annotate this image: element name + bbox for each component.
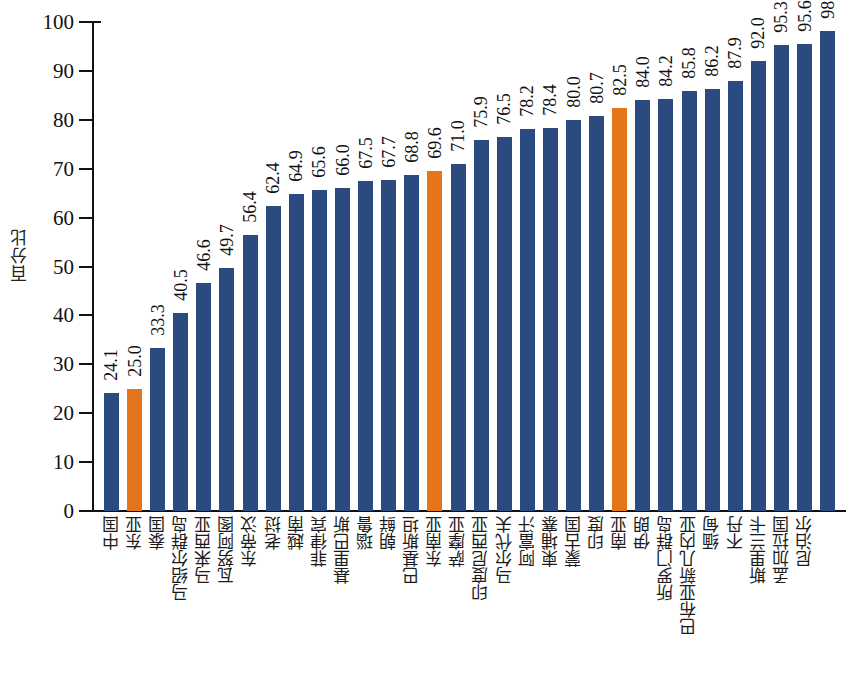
x-axis-category-label: 基里巴斯 [331, 516, 354, 584]
bar[interactable] [335, 188, 350, 511]
bar[interactable] [797, 44, 812, 511]
x-axis-category-label: 尼泊尔 [793, 516, 816, 567]
bar-value-label: 92.0 [749, 17, 767, 49]
y-axis-tick [79, 119, 92, 121]
y-axis-tick-label: 20 [0, 403, 74, 424]
bar-slot: 65.6 [308, 22, 331, 511]
bar-slot: 25.0 [123, 22, 146, 511]
x-axis-category-text: 不丹 [727, 516, 744, 550]
bar[interactable] [589, 116, 604, 511]
bar-value-label: 67.7 [380, 136, 398, 168]
bar-value-label: 80.7 [588, 73, 606, 105]
bar-value-label: 65.6 [310, 146, 328, 178]
bar-value-label: 68.8 [403, 131, 421, 163]
bar-slot: 56.4 [239, 22, 262, 511]
x-axis-category-text: 所罗门群岛 [657, 516, 674, 601]
bar[interactable] [219, 268, 234, 511]
x-axis-category-text: 缅甸 [703, 516, 720, 550]
bar-value-label: 66.0 [334, 145, 352, 177]
x-axis-category-label: 不丹 [724, 516, 747, 550]
y-axis-tick-label: 50 [0, 256, 74, 277]
bar-slot: 40.5 [169, 22, 192, 511]
bar-slot: 71.0 [446, 22, 469, 511]
bar-slot: 68.8 [400, 22, 423, 511]
bar-value-label: 75.9 [472, 96, 490, 128]
bar[interactable] [150, 348, 165, 511]
bar[interactable] [243, 235, 258, 511]
bar[interactable] [751, 61, 766, 511]
y-axis-tick-label: 80 [0, 109, 74, 130]
bar-value-label: 78.4 [541, 84, 559, 116]
bar[interactable] [266, 206, 281, 511]
x-axis-category-text: 东亚 [126, 516, 143, 550]
bar[interactable] [774, 45, 789, 511]
x-axis-category-label: 巴基斯坦 [400, 516, 423, 584]
bar[interactable] [381, 180, 396, 511]
x-axis-category-label: 马绍尔群岛 [169, 516, 192, 601]
x-axis-category-text: 菲律宾 [311, 516, 328, 567]
bar[interactable] [173, 313, 188, 511]
x-axis-category-text: 巴基斯坦 [403, 516, 420, 584]
y-axis-tick-label: 0 [0, 501, 74, 522]
x-axis-category-text: 马尔代夫 [496, 516, 513, 584]
x-axis-category-label: 东帝汶 [239, 516, 262, 567]
bar[interactable] [104, 393, 119, 511]
bar[interactable] [728, 81, 743, 511]
bar[interactable] [289, 194, 304, 511]
bar[interactable] [658, 99, 673, 511]
bar[interactable] [312, 190, 327, 511]
bar-highlighted[interactable] [612, 108, 627, 511]
bar[interactable] [705, 89, 720, 511]
bar-slot: 84.2 [654, 22, 677, 511]
bar[interactable] [474, 140, 489, 511]
plot-area: 24.125.033.340.546.649.756.462.464.965.6… [93, 22, 845, 511]
bar[interactable] [682, 91, 697, 511]
bar-slot: 78.2 [516, 22, 539, 511]
x-axis-category-text: 越南 [288, 516, 305, 550]
x-axis-category-text: 东南亚 [426, 516, 443, 567]
bar-highlighted[interactable] [427, 171, 442, 511]
x-axis-category-text: 泰国 [149, 516, 166, 550]
bar[interactable] [543, 128, 558, 511]
bar[interactable] [566, 120, 581, 511]
y-axis-tick [79, 217, 92, 219]
x-axis-category-label: 朝鲜 [377, 516, 400, 550]
bar-slot: 78.4 [539, 22, 562, 511]
x-axis-category-text: 马来西亚 [195, 516, 212, 584]
x-axis-category-label: 瓦努阿图 [215, 516, 238, 584]
x-axis-category-label: 孟加拉国 [770, 516, 793, 584]
bar-value-label: 71.0 [449, 120, 467, 152]
bar[interactable] [635, 100, 650, 511]
bar-value-label: 56.4 [241, 191, 259, 223]
x-axis-category-label: 东南亚 [423, 516, 446, 567]
bar[interactable] [404, 175, 419, 511]
bar-slot: 85.8 [678, 22, 701, 511]
bar-value-label: 82.5 [611, 64, 629, 96]
bar[interactable] [820, 31, 835, 511]
y-axis-tick [79, 461, 92, 463]
x-axis-category-text: 伊朗 [634, 516, 651, 550]
x-axis-category-label: 马尔代夫 [493, 516, 516, 584]
bar-highlighted[interactable] [127, 389, 142, 511]
x-axis-category-label: 所罗门群岛 [654, 516, 677, 601]
bar-value-label: 85.8 [680, 48, 698, 80]
bar-value-label: 40.5 [172, 269, 190, 301]
bar[interactable] [196, 283, 211, 511]
x-axis-category-text: 瓦努阿图 [218, 516, 235, 584]
bar-slot: 49.7 [215, 22, 238, 511]
bar-value-label: 64.9 [287, 150, 305, 182]
y-axis-tick [79, 510, 92, 512]
bar-slot: 75.9 [470, 22, 493, 511]
bar[interactable] [497, 137, 512, 511]
x-axis-category-label: 马来西亚 [192, 516, 215, 584]
bar[interactable] [520, 129, 535, 511]
bar-value-label: 78.2 [518, 85, 536, 117]
bar[interactable] [451, 164, 466, 511]
bar[interactable] [358, 181, 373, 511]
x-axis-category-text: 老挝 [265, 516, 282, 550]
x-axis-category-label: 中国 [100, 516, 123, 550]
bar-value-label: 25.0 [126, 345, 144, 377]
x-axis-category-label: 柬埔寨 [539, 516, 562, 567]
y-axis-tick [79, 363, 92, 365]
y-axis-tick [79, 266, 92, 268]
